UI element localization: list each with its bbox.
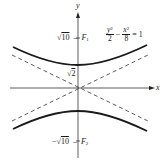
term2-den: 8: [124, 35, 128, 43]
x-axis-label: x: [156, 83, 160, 92]
focus-lower-dash: –: [73, 137, 77, 146]
focus-upper-subscript: 1: [86, 37, 89, 42]
y-axis-arrow-icon: [76, 12, 80, 18]
term1-exp: 2: [110, 26, 113, 31]
focus-lower-subscript: 2: [86, 141, 89, 146]
focus-upper-value: 10: [61, 33, 69, 42]
term1-den: 2: [108, 35, 112, 43]
x-axis-arrow-icon: [149, 86, 155, 90]
vertex-upper-value: 2: [71, 69, 75, 78]
focus-upper-label: √10 – F1: [57, 33, 89, 42]
y-axis-label: y: [76, 1, 80, 10]
term2-exp: 2: [127, 26, 130, 31]
hyperbola-equation: y2 2 − x2 8 = 1: [106, 26, 143, 43]
vertex-upper-label: √2: [67, 69, 75, 78]
equation-term-1: y2 2: [106, 26, 114, 43]
equation-equals: = 1: [132, 30, 143, 39]
hyperbola-upper-branch: [13, 45, 147, 65]
hyperbola-lower-branch: [13, 111, 147, 131]
focus-upper-dash: –: [73, 33, 77, 42]
equation-term-2: x2 8: [122, 26, 130, 43]
focus-lower-label: −√10 – F2: [52, 137, 88, 146]
equation-minus: −: [116, 30, 121, 39]
hyperbola-diagram: [0, 0, 164, 160]
focus-lower-value: 10: [61, 137, 69, 146]
